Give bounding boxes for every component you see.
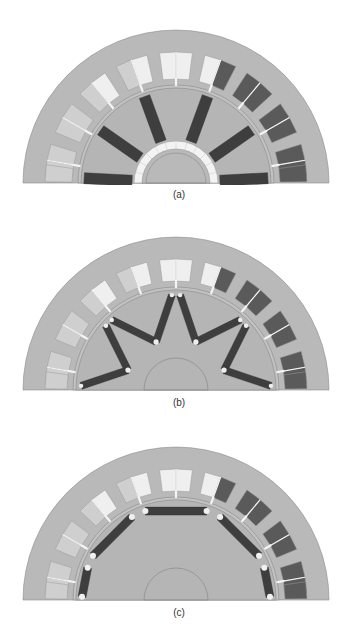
coil-side xyxy=(160,259,176,282)
caption-c: (c) xyxy=(0,607,358,618)
figure-a xyxy=(0,22,358,185)
coil-side xyxy=(284,372,307,389)
flux-barrier xyxy=(154,339,159,344)
motor-cross-section-a xyxy=(0,22,358,185)
surface-magnet xyxy=(145,507,206,515)
flux-barrier xyxy=(217,514,223,520)
caption-b: (b) xyxy=(0,397,358,408)
flux-barrier xyxy=(204,508,210,514)
running-header-text: MACHINE TOPOLOGIES OF PERMANENT MAGNET E… xyxy=(14,0,287,1)
flux-barrier xyxy=(110,318,114,322)
flux-barrier xyxy=(90,553,96,559)
coil-side xyxy=(284,582,307,599)
flux-barrier xyxy=(178,293,182,297)
coil-side xyxy=(45,372,68,389)
slot-opening xyxy=(175,78,177,86)
coil-side xyxy=(45,582,68,599)
flux-barrier xyxy=(261,565,267,571)
flux-barrier xyxy=(193,339,198,344)
motor-cross-section-c xyxy=(0,434,358,602)
flux-barrier xyxy=(256,553,262,559)
figure-b xyxy=(0,224,358,392)
flux-barrier xyxy=(221,368,226,373)
flux-barrier xyxy=(238,318,242,322)
flux-barrier xyxy=(79,384,83,388)
coil-side xyxy=(176,259,192,282)
flux-barrier xyxy=(267,594,273,600)
caption-a: (a) xyxy=(0,189,358,200)
flux-barrier xyxy=(129,514,135,520)
flux-barrier xyxy=(85,565,91,571)
coil-side xyxy=(176,469,192,492)
flux-barrier xyxy=(125,368,130,373)
slot-opening xyxy=(175,490,177,498)
flux-barrier xyxy=(269,384,273,388)
figure-c xyxy=(0,434,358,602)
coil-side xyxy=(160,469,176,492)
flux-barrier xyxy=(142,508,148,514)
flux-barrier xyxy=(244,324,248,328)
flux-barrier xyxy=(79,594,85,600)
motor-cross-section-b xyxy=(0,224,358,392)
flux-barrier xyxy=(170,293,174,297)
slot-opening xyxy=(175,280,177,288)
running-header: MACHINE TOPOLOGIES OF PERMANENT MAGNET E… xyxy=(14,0,344,4)
flux-barrier xyxy=(104,324,108,328)
